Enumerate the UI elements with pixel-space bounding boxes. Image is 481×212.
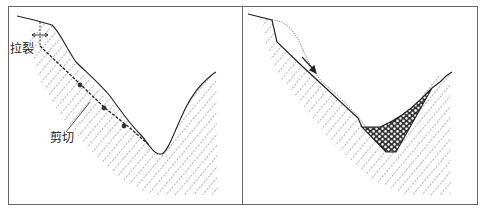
shear-label: 剪切 [50,132,74,144]
right-rock-hatch [262,18,451,195]
diagram: 拉裂 剪切 [0,0,481,212]
tension-crack-label: 拉裂 [10,43,34,55]
left-panel [17,16,218,195]
right-panel [248,14,452,195]
left-rock-hatch [30,22,218,195]
diagram-canvas [0,0,481,212]
